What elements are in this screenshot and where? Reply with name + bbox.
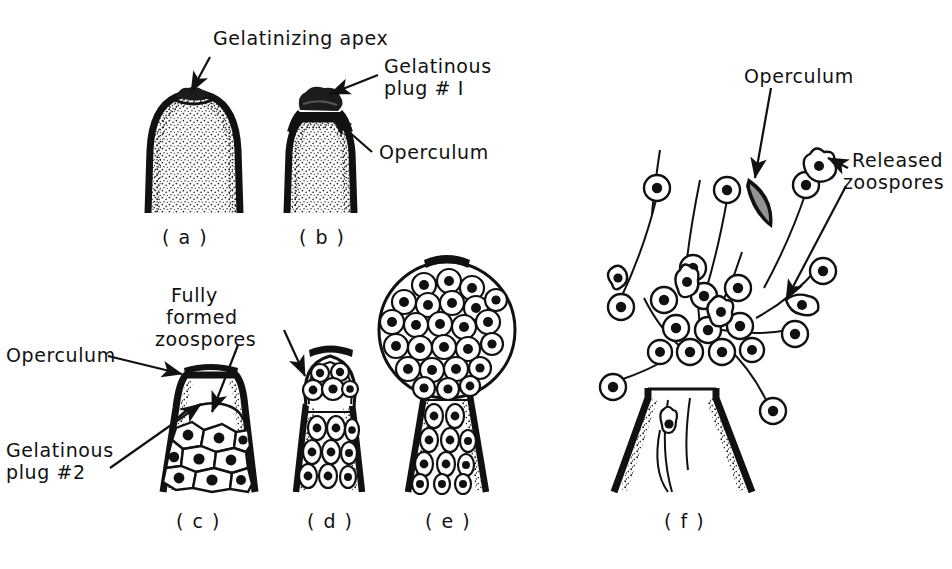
figure-canvas: Gelatinizing apex Gelatinous plug # I Op…: [0, 0, 952, 569]
label-gelatinous-plug-1-line2: plug # I: [384, 78, 464, 99]
panel-a-sporangium: [148, 87, 240, 213]
caption-panel-f: ( f ): [664, 510, 705, 532]
label-gelatinous-plug-1-line1: Gelatinous: [384, 56, 492, 77]
arrow-gelatinous-plug-1: [330, 75, 378, 94]
label-fully-formed-line2: formed: [166, 307, 238, 328]
caption-panel-d: ( d ): [307, 510, 353, 532]
caption-panel-b: ( b ): [299, 226, 345, 248]
caption-panel-c: ( c ): [176, 510, 221, 532]
panel-b-sporangium: [287, 87, 354, 213]
zoospore-inside: [660, 407, 677, 433]
arrow-gelatinizing-apex: [191, 57, 210, 92]
label-released-zoospores-line2: zoospores: [843, 172, 944, 193]
panel-e-sporangium: [379, 255, 515, 494]
label-operculum-c: Operculum: [6, 345, 116, 366]
label-operculum-f: Operculum: [744, 66, 854, 87]
label-fully-formed-line3: zoospores: [155, 329, 256, 350]
detached-operculum: [746, 178, 773, 228]
arrow-operculum-c: [108, 356, 182, 374]
label-fully-formed-line1: Fully: [171, 285, 218, 306]
panel-d-sporangium: [296, 346, 362, 493]
label-operculum-b: Operculum: [379, 142, 489, 163]
arrow-fully-formed-zoospores-d: [284, 330, 305, 376]
panel-f-sporangium: [600, 148, 836, 492]
panel-c-sporangium: [163, 364, 255, 492]
caption-panel-e: ( e ): [425, 510, 471, 532]
arrow-operculum-f: [755, 88, 771, 178]
label-gelatinous-plug-2-line2: plug #2: [6, 462, 86, 483]
label-gelatinous-plug-2-line1: Gelatinous: [6, 440, 114, 461]
label-released-zoospores-line1: Released: [852, 150, 943, 171]
caption-panel-a: ( a ): [162, 226, 208, 248]
label-gelatinizing-apex: Gelatinizing apex: [213, 28, 388, 49]
